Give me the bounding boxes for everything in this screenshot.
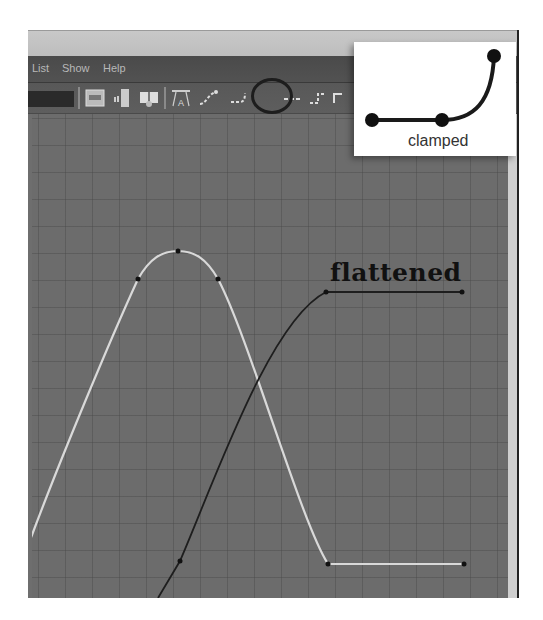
flattened-annotation: flattened — [330, 258, 462, 287]
keyframe[interactable] — [462, 562, 467, 567]
callout-label: clamped — [408, 132, 468, 150]
keyframe[interactable] — [136, 277, 141, 282]
keyframe[interactable] — [326, 562, 331, 567]
clamped-tangent-diagram-icon — [354, 42, 516, 132]
keyframe[interactable] — [324, 290, 329, 295]
keyframe[interactable] — [216, 277, 221, 282]
clamped-callout: clamped — [354, 42, 516, 156]
keyframe[interactable] — [460, 290, 465, 295]
keyframe[interactable] — [176, 249, 181, 254]
dark-curve[interactable] — [158, 292, 462, 598]
keyframe[interactable] — [178, 559, 183, 564]
light-curve[interactable] — [20, 251, 464, 565]
